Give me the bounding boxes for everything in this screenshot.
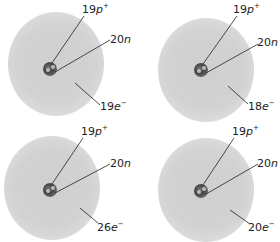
atom-panel-a: 19p+ 20n 19e− [0, 0, 140, 120]
proton-label: 19p+ [233, 3, 260, 16]
neutron-label: 20n [110, 157, 131, 170]
proton-label: 19p+ [82, 3, 109, 16]
proton-label: 19p+ [81, 125, 108, 138]
atom-panel-d: 19p+ 20n 20e− [140, 120, 280, 240]
electron-label: 20e− [248, 221, 275, 234]
atom-panel-c: 19p+ 20n 26e− [0, 120, 140, 240]
electron-label: 19e− [100, 100, 127, 113]
neutron-label: 20n [257, 157, 278, 170]
proton-label: 19p+ [232, 125, 259, 138]
electron-label: 18e− [248, 100, 275, 113]
neutron-label: 20n [110, 33, 131, 46]
electron-label: 26e− [97, 221, 124, 234]
neutron-label: 20n [257, 36, 278, 49]
atom-panel-b: 19p+ 20n 18e− [140, 0, 280, 120]
